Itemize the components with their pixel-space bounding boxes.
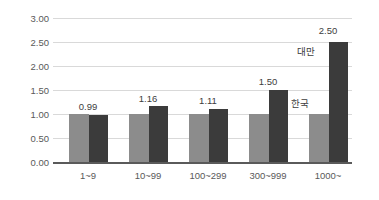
bar-group-10-99: [129, 18, 168, 162]
y-tick-label: 2.00: [5, 61, 49, 72]
data-label: 0.99: [79, 101, 98, 112]
x-tick-label: 100~299: [189, 170, 226, 181]
bar-taiwan: [89, 115, 109, 163]
bar-korea: [249, 114, 269, 162]
bar-taiwan: [269, 90, 289, 162]
y-tick-label: 1.50: [5, 85, 49, 96]
x-tick-label: 10~99: [135, 170, 162, 181]
y-tick-label: 2.50: [5, 37, 49, 48]
y-tick-label: 0.00: [5, 157, 49, 168]
bar-korea: [309, 114, 329, 162]
data-label: 1.11: [199, 95, 217, 106]
bar-group-100-299: [189, 18, 228, 162]
bar-group-1000: [309, 18, 348, 162]
bar-groups: [53, 18, 352, 162]
y-tick-label: 1.00: [5, 109, 49, 120]
bar-taiwan: [209, 109, 229, 162]
x-tick-label: 1000~: [315, 170, 342, 181]
bar-korea: [189, 114, 209, 162]
bar-korea: [69, 114, 89, 162]
y-tick-label: 0.50: [5, 133, 49, 144]
data-label: 1.50: [259, 76, 278, 87]
bar-korea: [129, 114, 149, 162]
bar-taiwan: [329, 42, 349, 162]
x-tick-label: 300~999: [249, 170, 286, 181]
bar-taiwan: [149, 106, 169, 162]
bar-group-1-9: [69, 18, 108, 162]
y-tick-label: 3.00: [5, 13, 49, 24]
bar-chart: 3.00 2.50 2.00 1.50 1.00 0.50 0.00: [0, 0, 379, 200]
data-label: 1.16: [139, 93, 158, 104]
x-axis-line: [53, 162, 352, 164]
series-annotation-korea: 한국: [291, 96, 309, 110]
data-label: 2.50: [319, 25, 338, 36]
bar-group-300-999: [249, 18, 288, 162]
series-annotation-taiwan: 대만: [297, 44, 315, 58]
y-axis-ticks: 3.00 2.50 2.00 1.50 1.00 0.50 0.00: [0, 0, 49, 200]
x-tick-label: 1~9: [80, 170, 96, 181]
